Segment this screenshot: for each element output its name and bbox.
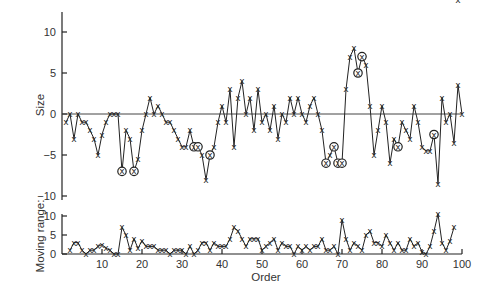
size-data-point: x xyxy=(247,93,253,103)
moving-range-data-point: x xyxy=(435,209,441,219)
size-data-point: x xyxy=(351,43,357,53)
size-data-point: x xyxy=(239,76,245,86)
size-data-point: x xyxy=(375,125,381,135)
size-data-point: x xyxy=(451,138,457,148)
size-data-point: x xyxy=(363,60,369,70)
size-data-point: x xyxy=(355,68,361,78)
size-data-point: x xyxy=(243,109,249,119)
size-data-point: x xyxy=(147,93,153,103)
size-data-point: x xyxy=(95,150,101,160)
moving-range-data-point: x xyxy=(359,245,365,255)
size-data-point: x xyxy=(71,134,77,144)
y-tick-label: 0 xyxy=(50,108,56,120)
size-data-point: x xyxy=(331,142,337,152)
size-data-point: x xyxy=(99,130,105,140)
moving-range-data-point: x xyxy=(227,234,233,244)
moving-range-data-point: x xyxy=(271,234,277,244)
size-data-point: x xyxy=(271,101,277,111)
size-data-point: x xyxy=(211,142,217,152)
moving-range-data-point: x xyxy=(367,226,373,236)
size-data-point: x xyxy=(183,142,189,152)
size-data-point: x xyxy=(455,80,461,90)
moving-range-data-point: x xyxy=(335,249,341,259)
size-data-point: x xyxy=(291,109,297,119)
size-data-point: x xyxy=(319,125,325,135)
size-data-point: x xyxy=(139,125,145,135)
size-data-point: x xyxy=(199,150,205,160)
size-data-point: x xyxy=(387,158,393,168)
y-axis-title-moving-range: Moving range: xyxy=(34,200,46,273)
x-tick-label: 90 xyxy=(416,258,428,270)
moving-range-data-point: x xyxy=(427,241,433,251)
size-data-point: x xyxy=(287,93,293,103)
size-data-point: x xyxy=(395,142,401,152)
y-axis-title-size: Size xyxy=(34,94,46,116)
size-data-point: x xyxy=(311,93,317,103)
size-data-point: x xyxy=(267,125,273,135)
x-tick-label: 80 xyxy=(376,258,388,270)
size-data-point: x xyxy=(203,175,209,185)
size-data-point: x xyxy=(371,150,377,160)
size-data-point: x xyxy=(283,117,289,127)
moving-range-data-point: x xyxy=(123,230,129,240)
size-data-point: x xyxy=(131,166,137,176)
y-tick-label: 5 xyxy=(50,67,56,79)
size-data-point: x xyxy=(315,109,321,119)
moving-range-data-point: x xyxy=(403,245,409,255)
size-data-point: x xyxy=(127,134,133,144)
mr-y-tick-label: 0 xyxy=(50,248,56,260)
size-data-point: x xyxy=(91,134,97,144)
size-data-point: x xyxy=(215,117,221,127)
moving-range-data-point: x xyxy=(447,236,453,246)
size-data-point: x xyxy=(431,130,437,140)
size-data-point: x xyxy=(219,101,225,111)
moving-range-data-point: x xyxy=(343,234,349,244)
size-data-point: x xyxy=(339,158,345,168)
size-data-point: x xyxy=(235,93,241,103)
moving-range-data-point: x xyxy=(115,249,121,259)
size-data-point: x xyxy=(303,117,309,127)
size-data-point: x xyxy=(411,101,417,111)
mr-y-tick-label: 5 xyxy=(50,229,56,241)
x-tick-label: 100 xyxy=(453,258,471,270)
moving-range-data-point: x xyxy=(131,234,137,244)
size-data-point: x xyxy=(383,117,389,127)
size-data-point: x xyxy=(115,109,121,119)
size-data-point: x xyxy=(223,117,229,127)
individuals-panel: 1050−5−10xxxxxxxxxxxxxxxxxxxxxxxxxxxxxxx… xyxy=(37,12,465,202)
x-tick-label: 50 xyxy=(256,258,268,270)
x-tick-label: 40 xyxy=(216,258,228,270)
moving-range-data-point: x xyxy=(255,234,261,244)
size-data-point: x xyxy=(459,109,465,119)
moving-range-data-point: x xyxy=(415,238,421,248)
size-data-point: x xyxy=(407,134,413,144)
control-chart: 1050−5−10xxxxxxxxxxxxxxxxxxxxxxxxxxxxxxx… xyxy=(0,0,491,293)
y-tick-label: −5 xyxy=(43,149,56,161)
size-data-point: x xyxy=(67,109,73,119)
size-data-point: x xyxy=(227,84,233,94)
size-data-point: x xyxy=(415,117,421,127)
x-tick-label: 10 xyxy=(96,258,108,270)
moving-range-data-point: x xyxy=(339,215,345,225)
size-data-point: x xyxy=(379,101,385,111)
size-data-point: x xyxy=(119,166,125,176)
x-tick-label: 30 xyxy=(176,258,188,270)
moving-range-data-point: x xyxy=(379,241,385,251)
y-tick-label: 10 xyxy=(44,26,56,38)
size-data-point: x xyxy=(143,109,149,119)
size-data-point: x xyxy=(295,93,301,103)
x-tick-label: 70 xyxy=(336,258,348,270)
x-tick-label: 60 xyxy=(296,258,308,270)
size-data-point: x xyxy=(187,125,193,135)
moving-range-data-point: x xyxy=(451,222,457,232)
size-data-point: x xyxy=(275,134,281,144)
size-data-point: x xyxy=(439,93,445,103)
size-data-point: x xyxy=(427,146,433,156)
moving-range-data-point: x xyxy=(443,245,449,255)
size-data-point: x xyxy=(435,179,441,189)
moving-range-data-point: x xyxy=(319,234,325,244)
moving-range-data-point: x xyxy=(455,0,461,5)
size-data-point: x xyxy=(367,101,373,111)
size-data-point: x xyxy=(231,142,237,152)
size-data-point: x xyxy=(135,154,141,164)
